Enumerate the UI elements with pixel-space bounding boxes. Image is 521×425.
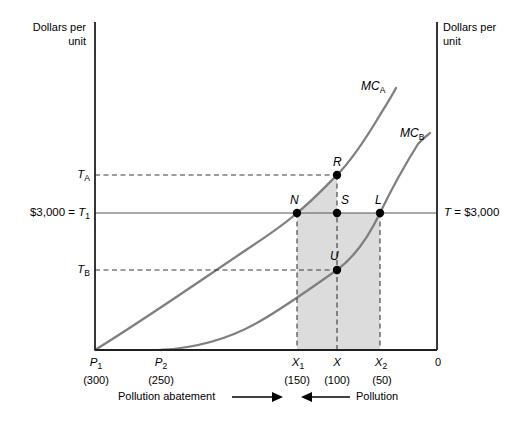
curve-mc-b (160, 133, 430, 350)
x-tick-paren-x1: (150) (281, 374, 313, 387)
y-tick-label-t1: $3,000 = T1 (10, 206, 90, 220)
x-tick-paren-x2: (50) (366, 374, 398, 387)
x-tick-label-p2: P2 (150, 356, 172, 370)
point-R (333, 171, 341, 179)
x-tick-paren-p1: (300) (80, 374, 112, 387)
x-tick-paren-x: (100) (321, 374, 353, 387)
point-N (293, 209, 301, 217)
y-axis-title-left: Dollars perunit (8, 21, 86, 48)
figure-container: Dollars perunit Dollars perunit TA $3,00… (0, 0, 521, 425)
y-tick-label-tb: TB (52, 263, 90, 277)
abatement-arrow-icon (232, 392, 283, 402)
x-tick-paren-p2: (250) (145, 374, 177, 387)
pollution-arrow-icon (301, 392, 350, 402)
x-tick-label-p1: P1 (85, 356, 107, 370)
x-tick-label-x: X (328, 356, 346, 369)
x-tick-label-origin: 0 (430, 356, 446, 369)
flow-label-abatement: Pollution abatement (118, 390, 215, 403)
point-label-L: L (375, 194, 382, 207)
point-label-R: R (333, 156, 342, 169)
point-U (333, 266, 341, 274)
point-label-U: U (330, 250, 339, 263)
y-tick-label-ta: TA (52, 168, 90, 182)
point-label-S: S (341, 194, 349, 207)
curve-label-mc-a: MCA (361, 80, 385, 94)
x-tick-label-x2: X2 (370, 356, 392, 370)
right-axis-label-t: T = $3,000 (444, 206, 499, 219)
x-tick-label-x1: X1 (287, 356, 309, 370)
point-S (333, 209, 341, 217)
point-label-N: N (290, 194, 299, 207)
y-axis-title-right: Dollars perunit (443, 21, 515, 48)
flow-label-pollution: Pollution (356, 390, 398, 403)
curve-label-mc-b: MCB (400, 127, 424, 141)
point-L (376, 209, 384, 217)
